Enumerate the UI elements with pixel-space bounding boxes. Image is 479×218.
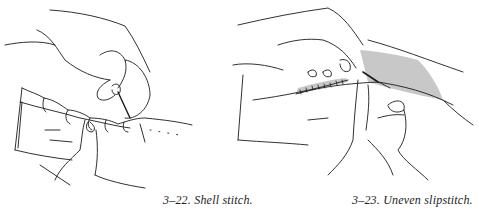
shading-fabric-right — [360, 50, 443, 100]
figure-caption-shell-stitch: 3–22. Shell stitch. — [163, 193, 253, 208]
figure-shell-stitch-illustration — [0, 0, 240, 190]
figure-caption-uneven-slipstitch: 3–23. Uneven slipstitch. — [352, 193, 473, 208]
shell-stitch-drawing — [0, 0, 240, 190]
uneven-slipstitch-drawing — [228, 0, 479, 190]
figure-uneven-slipstitch-illustration — [228, 0, 479, 190]
